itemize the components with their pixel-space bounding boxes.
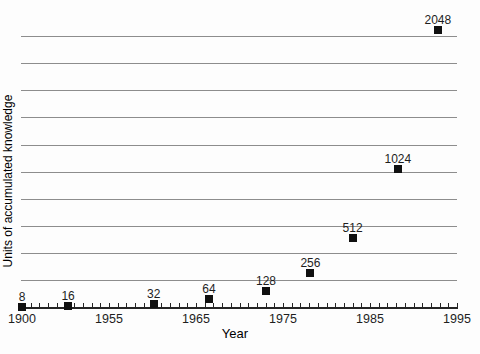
x-axis-tick xyxy=(318,303,319,307)
gridline xyxy=(21,63,457,64)
x-axis-tick xyxy=(57,303,58,307)
x-axis-tick xyxy=(266,303,267,307)
data-point-marker xyxy=(150,300,158,308)
gridline xyxy=(21,172,457,173)
x-axis-tick xyxy=(248,303,249,307)
data-point-marker xyxy=(349,234,357,242)
x-axis-tick xyxy=(100,303,101,307)
x-axis-tick xyxy=(231,303,232,307)
x-axis-tick xyxy=(31,303,32,307)
x-axis-tick-label: 1900 xyxy=(8,313,36,326)
x-axis-tick xyxy=(405,303,406,307)
data-point-label: 32 xyxy=(147,288,160,300)
gridline xyxy=(21,226,457,227)
x-axis-tick xyxy=(440,303,441,307)
y-axis-title: Units of accumulated knowledge xyxy=(2,95,14,268)
x-axis-tick xyxy=(170,303,171,307)
x-axis-tick xyxy=(179,303,180,307)
gridline xyxy=(21,117,457,118)
x-axis-tick xyxy=(144,303,145,307)
x-axis-tick xyxy=(292,303,293,307)
data-point-label: 8 xyxy=(19,291,26,303)
gridline xyxy=(21,199,457,200)
x-axis-tick xyxy=(240,303,241,307)
x-axis-tick xyxy=(335,303,336,307)
x-axis-tick xyxy=(422,303,423,307)
data-point-label: 16 xyxy=(61,290,74,302)
x-axis-tick xyxy=(414,303,415,307)
gridline xyxy=(21,253,457,254)
x-axis-tick xyxy=(196,303,197,307)
data-point-label: 2048 xyxy=(425,14,452,26)
data-point-label: 512 xyxy=(343,222,363,234)
x-axis-tick xyxy=(379,303,380,307)
x-axis-tick xyxy=(39,303,40,307)
x-axis-tick xyxy=(257,303,258,307)
data-point-marker xyxy=(64,302,72,310)
x-axis-tick xyxy=(387,303,388,307)
x-axis-line xyxy=(21,307,458,309)
x-axis-tick xyxy=(283,303,284,307)
x-axis-tick xyxy=(92,303,93,307)
data-point-marker xyxy=(434,26,442,34)
x-axis-tick xyxy=(431,303,432,307)
x-axis-tick xyxy=(83,303,84,307)
x-axis-tick xyxy=(344,303,345,307)
x-axis-tick xyxy=(300,303,301,307)
x-axis-tick xyxy=(213,303,214,307)
data-point-marker xyxy=(262,287,270,295)
data-point-marker xyxy=(306,269,314,277)
x-axis-tick xyxy=(448,303,449,307)
data-point-label: 256 xyxy=(300,257,320,269)
x-axis-tick xyxy=(309,303,310,307)
data-point-label: 128 xyxy=(256,275,276,287)
x-axis-tick xyxy=(48,303,49,307)
data-point-marker xyxy=(205,295,213,303)
x-axis-tick xyxy=(109,303,110,307)
accumulated-knowledge-chart: Units of accumulated knowledge 190019551… xyxy=(0,0,480,354)
data-point-marker xyxy=(18,303,26,311)
x-axis-tick xyxy=(126,303,127,307)
x-axis-tick xyxy=(327,303,328,307)
gridline xyxy=(21,280,457,281)
x-axis-tick xyxy=(457,303,458,307)
x-axis-tick-label: 1955 xyxy=(95,313,123,326)
x-axis-tick-label: 1985 xyxy=(356,313,384,326)
x-axis-tick xyxy=(74,303,75,307)
data-point-label: 64 xyxy=(202,283,215,295)
x-axis-tick xyxy=(370,303,371,307)
x-axis-tick xyxy=(161,303,162,307)
x-axis-tick xyxy=(118,303,119,307)
gridline xyxy=(21,145,457,146)
x-axis-title: Year xyxy=(222,327,248,340)
x-axis-tick xyxy=(187,303,188,307)
x-axis-tick-label: 1995 xyxy=(443,313,471,326)
gridline xyxy=(21,36,457,37)
x-axis-tick xyxy=(222,303,223,307)
x-axis-tick xyxy=(135,303,136,307)
x-axis-tick xyxy=(361,303,362,307)
data-point-label: 1024 xyxy=(384,153,411,165)
x-axis-tick xyxy=(353,303,354,307)
x-axis-tick-label: 1965 xyxy=(182,313,210,326)
x-axis-tick-label: 1975 xyxy=(269,313,297,326)
x-axis-tick xyxy=(396,303,397,307)
x-axis-tick xyxy=(274,303,275,307)
gridline xyxy=(21,90,457,91)
data-point-marker xyxy=(394,165,402,173)
